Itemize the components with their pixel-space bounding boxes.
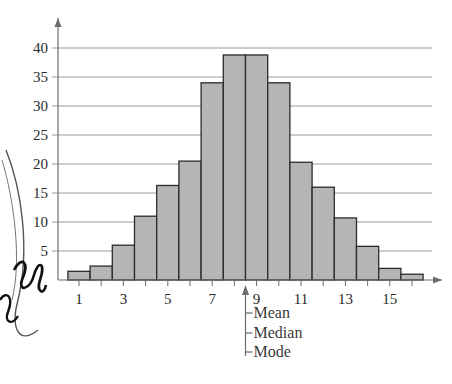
bars [68,55,423,280]
histogram-bar [157,185,179,280]
histogram-bar [135,216,157,280]
histogram-bar [312,187,334,280]
annotation-label-median: Median [254,324,303,341]
x-tick-label: 3 [120,291,128,307]
histogram-bar [334,218,356,280]
histogram-bar [268,83,290,280]
y-axis-arrow-icon [55,18,62,27]
y-tick-label: 15 [33,185,48,201]
annotation-label-mean: Mean [254,304,290,321]
annotation-label-mode: Mode [254,343,291,360]
histogram-bar [401,274,423,280]
y-axis-ticks: 510152025303540 [33,40,48,259]
x-tick-label: 5 [164,291,172,307]
histogram-chart: 510152025303540 13579111315 MeanMedianMo… [0,0,452,384]
y-tick-label: 35 [33,69,48,85]
y-tick-label: 25 [33,127,48,143]
y-tick-label: 30 [33,98,48,114]
histogram-bar [246,55,268,280]
x-tick-label: 11 [294,291,308,307]
x-tick-label: 1 [75,291,83,307]
histogram-bar [379,268,401,280]
x-tick-label: 13 [338,291,353,307]
histogram-bar [68,271,90,280]
histogram-bar [179,161,201,280]
x-tick-label: 7 [208,291,216,307]
annotation-arrow-icon [242,285,249,295]
x-axis-arrow-icon [433,277,442,284]
histogram-bar [201,83,223,280]
y-tick-label: 40 [33,40,48,56]
handwritten-scribble [0,150,46,336]
histogram-bar [223,55,245,280]
y-tick-label: 10 [33,214,48,230]
histogram-bar [357,246,379,280]
y-tick-label: 5 [41,243,49,259]
histogram-bar [112,245,134,280]
histogram-bar [90,266,112,280]
x-tick-label: 15 [382,291,397,307]
y-tick-label: 20 [33,156,48,172]
histogram-bar [290,162,312,280]
